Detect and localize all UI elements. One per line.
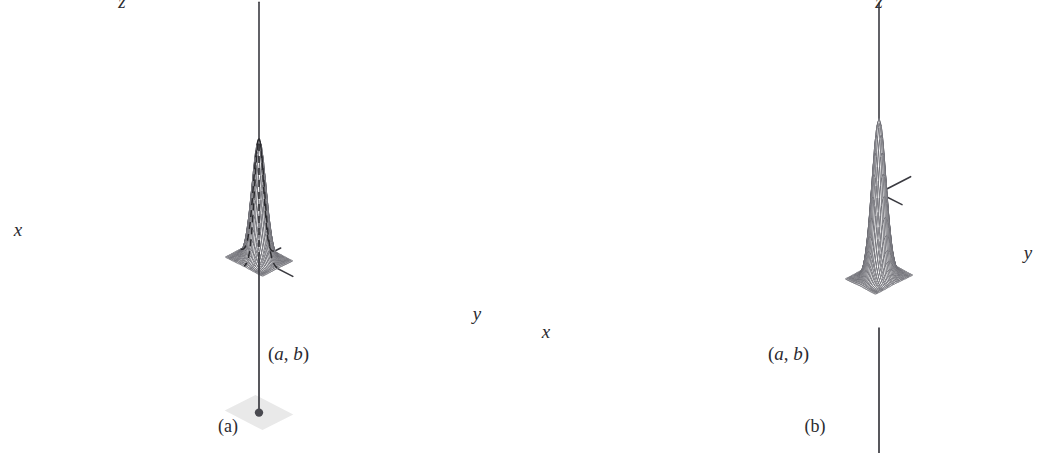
surface-mesh <box>845 119 913 295</box>
panel-a: z x y (a, b) (a) <box>0 0 521 453</box>
surface-plot-b <box>521 0 1043 453</box>
panel-b: z x y (a, b) (b) <box>521 0 1043 453</box>
critical-point-dot <box>255 408 263 416</box>
surface-plot-a <box>0 0 521 453</box>
figure-root: z x y (a, b) (a) z x y (a, b) (b) <box>0 0 1043 453</box>
